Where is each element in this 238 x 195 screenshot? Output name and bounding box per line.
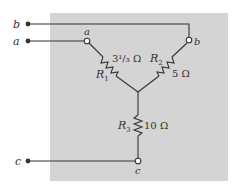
terminal-b-dot xyxy=(26,22,31,27)
resistor-r1-name: R1 xyxy=(95,68,109,83)
terminal-a-label: a xyxy=(13,35,20,48)
wire-b xyxy=(28,24,189,37)
resistor-r1-value: 3¹/₃ Ω xyxy=(112,53,141,64)
resistor-r3-value: 10 Ω xyxy=(144,120,168,131)
node-a-label: a xyxy=(84,26,90,37)
terminal-b-label: b xyxy=(13,18,20,31)
resistor-r2-name: R2 xyxy=(149,52,163,67)
resistor-r2-value: 5 Ω xyxy=(172,68,190,79)
node-a-circle xyxy=(84,38,90,44)
terminal-c-label: c xyxy=(15,155,21,168)
terminal-a-dot xyxy=(26,39,31,44)
resistor-r3-zigzag xyxy=(134,115,142,136)
node-c-label: c xyxy=(135,165,141,176)
node-c-circle xyxy=(135,158,141,164)
node-b-label: b xyxy=(194,36,200,47)
resistor-r3-name: R3 xyxy=(117,119,131,134)
node-b-circle xyxy=(186,37,192,43)
terminal-c-dot xyxy=(26,159,31,164)
wye-circuit-diagram: b a c a b c R1 3¹/₃ Ω R2 5 Ω R3 10 Ω xyxy=(0,0,238,195)
